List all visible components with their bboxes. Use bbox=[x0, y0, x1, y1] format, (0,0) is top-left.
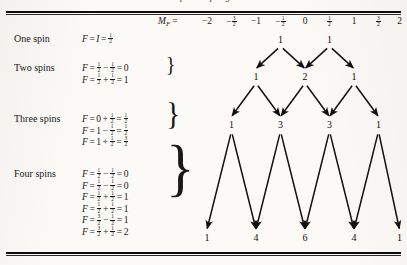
math-operator: = bbox=[89, 191, 94, 202]
mf-value-4: 0 bbox=[294, 16, 316, 26]
math-number: 1 bbox=[124, 214, 129, 225]
math-variable: F bbox=[82, 33, 88, 44]
math-number: 0 bbox=[124, 62, 129, 73]
top-rule-thick bbox=[6, 11, 401, 13]
fraction-glyph: 12 bbox=[110, 73, 115, 85]
math-number: 0 bbox=[124, 180, 129, 191]
mf-header-row: MF= −2−32−1−120121322 bbox=[0, 16, 407, 30]
math-variable: I bbox=[96, 33, 99, 44]
group-brace-3: } bbox=[166, 140, 195, 203]
intensity-node: 1 bbox=[246, 71, 266, 82]
equation-line-1-1: F=12+12=1 bbox=[82, 74, 129, 86]
bottom-rule-thick bbox=[6, 252, 401, 254]
fraction-glyph: 12 bbox=[327, 16, 332, 29]
math-operator: = bbox=[117, 62, 122, 73]
math-variable: F bbox=[82, 226, 88, 237]
equation-block-3: F=12−12=0F=12−12=0F=12+12=1F=12+12=1F=32… bbox=[82, 168, 129, 238]
mf-subscript: F bbox=[166, 20, 170, 28]
intensity-node: 6 bbox=[295, 232, 315, 243]
fraction-glyph: 12 bbox=[97, 73, 102, 85]
fraction-glyph: 32 bbox=[124, 136, 129, 148]
math-operator: = bbox=[117, 74, 122, 85]
branch-arrow bbox=[281, 86, 303, 116]
mf-value-5: 12 bbox=[319, 16, 341, 29]
math-operator: − bbox=[103, 180, 108, 191]
math-operator: = bbox=[117, 214, 122, 225]
fraction-glyph: 32 bbox=[97, 226, 102, 238]
fraction: −32 bbox=[226, 17, 237, 27]
fraction: 12 bbox=[110, 74, 115, 85]
math-operator: + bbox=[103, 226, 108, 237]
equation-line-3-4: F=32−12=1 bbox=[82, 214, 129, 226]
math-operator: = bbox=[89, 62, 94, 73]
mf-header-label: MF= bbox=[158, 16, 178, 28]
math-operator: − bbox=[103, 125, 108, 136]
mf-value-3: −12 bbox=[270, 16, 292, 29]
math-operator: = bbox=[89, 214, 94, 225]
fraction: 32 bbox=[123, 136, 128, 147]
fraction: 12 bbox=[110, 180, 115, 191]
fraction-denominator: 2 bbox=[376, 21, 381, 28]
math-operator: = bbox=[116, 125, 121, 136]
equation-line-3-2: F=12+12=1 bbox=[82, 191, 129, 203]
math-variable: F bbox=[82, 191, 88, 202]
branch-arrow bbox=[354, 134, 377, 228]
math-number: 0 bbox=[96, 113, 101, 124]
group-brace-1: } bbox=[166, 55, 176, 76]
mf-value-7: 32 bbox=[368, 16, 390, 29]
intensity-node: 1 bbox=[271, 34, 291, 45]
mf-value-1: −32 bbox=[221, 16, 243, 29]
intensity-node: 4 bbox=[246, 232, 266, 243]
math-number: 1 bbox=[96, 125, 101, 136]
equation-line-3-5: F=32+12=2 bbox=[82, 226, 129, 238]
equation-block-1: F=12−12=0F=12+12=1 bbox=[82, 62, 129, 85]
figure-panel: spin coupling MF= −2−32−1−120121322 One … bbox=[0, 0, 407, 265]
branch-arrow bbox=[257, 48, 278, 67]
fraction: 12 bbox=[96, 180, 101, 191]
math-variable: F bbox=[82, 180, 88, 191]
equation-line-0-0: F=I=12 bbox=[82, 33, 113, 45]
math-operator: + bbox=[103, 136, 108, 147]
fraction-glyph: 12 bbox=[281, 16, 286, 29]
math-variable: F bbox=[82, 214, 88, 225]
math-variable: F bbox=[82, 62, 88, 73]
branch-arrow bbox=[258, 86, 280, 116]
fraction: 32 bbox=[96, 214, 101, 225]
math-number: 1 bbox=[124, 191, 129, 202]
branch-arrow bbox=[283, 48, 304, 67]
math-operator: − bbox=[103, 62, 108, 73]
math-operator: + bbox=[103, 74, 108, 85]
equation-line-3-0: F=12−12=0 bbox=[82, 168, 129, 180]
fraction-denominator: 2 bbox=[97, 231, 102, 238]
math-operator: = bbox=[89, 180, 94, 191]
fraction: 12 bbox=[110, 214, 115, 225]
math-operator: = bbox=[117, 203, 122, 214]
row-label-2: Three spins bbox=[14, 113, 60, 124]
branch-arrow bbox=[330, 86, 352, 116]
math-operator: = bbox=[89, 113, 94, 124]
math-operator: + bbox=[103, 203, 108, 214]
intensity-node: 1 bbox=[344, 71, 364, 82]
branch-arrow bbox=[207, 134, 230, 228]
intensity-node: 1 bbox=[320, 34, 340, 45]
equation-block-2: F=0+12=12F=1−12=12F=1+12=32 bbox=[82, 113, 129, 148]
fraction-denominator: 2 bbox=[232, 21, 237, 28]
math-operator: + bbox=[103, 191, 108, 202]
row-label-0: One spin bbox=[14, 33, 50, 44]
mf-value-8: 2 bbox=[389, 16, 407, 26]
math-operator: − bbox=[103, 214, 108, 225]
group-brace-2: } bbox=[166, 101, 180, 132]
fraction: 32 bbox=[376, 17, 381, 27]
branch-arrow bbox=[305, 134, 328, 228]
math-operator: = bbox=[89, 226, 94, 237]
branch-arrow bbox=[330, 134, 353, 228]
fraction: −12 bbox=[275, 17, 286, 27]
fraction-denominator: 2 bbox=[110, 79, 115, 86]
branch-arrow bbox=[281, 134, 304, 228]
branch-arrow bbox=[232, 86, 254, 116]
math-number: 1 bbox=[124, 74, 129, 85]
intensity-node: 1 bbox=[369, 119, 389, 130]
mf-equals: = bbox=[172, 16, 177, 26]
intensity-node: 4 bbox=[344, 232, 364, 243]
math-operator: = bbox=[89, 203, 94, 214]
